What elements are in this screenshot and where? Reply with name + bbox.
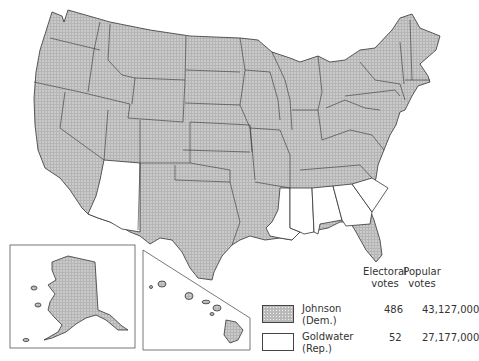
popular-votes-value: 43,127,000 [422, 304, 479, 315]
candidate-label: Goldwater (Rep.) [302, 331, 353, 355]
electoral-votes-value: 486 [384, 304, 403, 315]
state-mississippi [290, 188, 314, 234]
popular-header-line2: votes [392, 278, 452, 290]
candidate-name: Johnson [302, 303, 341, 315]
contiguous-us [34, 10, 440, 280]
popular-votes-value: 27,177,000 [422, 332, 479, 343]
candidate-party: (Rep.) [302, 343, 353, 355]
electoral-votes-value: 52 [389, 332, 402, 343]
popular-votes-header: Popular votes [392, 266, 452, 290]
popular-header-line1: Popular [392, 266, 452, 278]
alaska-inset [10, 245, 135, 348]
candidate-party: (Dem.) [302, 315, 341, 327]
white-swatch-icon [262, 333, 294, 351]
stippled-swatch-icon [262, 305, 294, 323]
legend-row-goldwater: Goldwater (Rep.) 52 27,177,000 [262, 331, 452, 357]
candidate-name: Goldwater [302, 331, 353, 343]
legend-row-johnson: Johnson (Dem.) 486 43,127,000 [262, 303, 452, 329]
candidate-label: Johnson (Dem.) [302, 303, 341, 327]
